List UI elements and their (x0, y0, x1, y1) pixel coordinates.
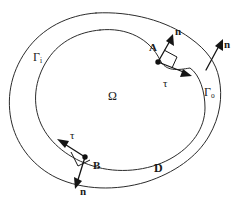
tangent-vector-at-a-arrowhead (180, 69, 192, 77)
tangent-vector-at-b-label: τ (70, 130, 74, 141)
point-a-label: A (149, 42, 157, 53)
inner-boundary-curve (36, 30, 205, 171)
tangent-vector-at-a-label: τ (163, 78, 167, 89)
inner-boundary-label-subscript: i (40, 56, 42, 65)
domain-diagram-svg (0, 0, 244, 204)
normal-vector-on-outer-curve (206, 44, 220, 70)
annulus-region-label: D (154, 162, 163, 174)
point-b-marker (82, 154, 87, 159)
inner-boundary-label-base: Γ (33, 50, 40, 64)
normal-vector-at-a-label: n (175, 26, 181, 37)
tangent-vector-at-b-arrowhead (57, 139, 69, 148)
outer-boundary-label-base: Γ (204, 85, 211, 99)
normal-vector-at-b-label: n (80, 186, 86, 197)
normal-vector-on-outer-curve-label: n (224, 39, 230, 50)
inner-boundary-label: Γi (33, 51, 42, 63)
normal-vector-on-outer-curve-arrowhead (215, 39, 223, 51)
inner-region-label: Ω (108, 90, 117, 102)
outer-boundary-label-subscript: o (211, 91, 215, 100)
figure-canvas: Γi Γo Ω D A B n τ n n τ (0, 0, 244, 204)
tangent-vector-at-a (158, 62, 186, 73)
normal-vector-at-a-arrowhead (166, 34, 174, 46)
point-b-label: B (93, 160, 100, 171)
outer-boundary-label: Γo (204, 86, 215, 98)
point-a-marker (155, 59, 160, 64)
